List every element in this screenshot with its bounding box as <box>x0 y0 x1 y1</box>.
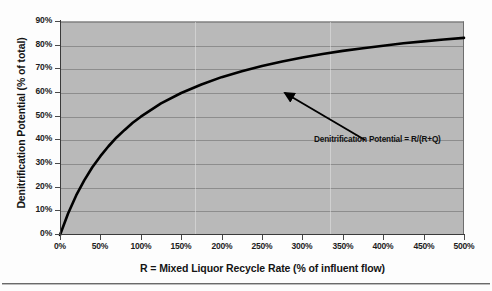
y-axis-tick-label: 70% <box>0 63 52 72</box>
y-axis-tick-label: 90% <box>0 16 52 25</box>
x-axis-tick <box>383 235 384 240</box>
y-axis-tick-label: 30% <box>0 158 52 167</box>
x-axis-tick <box>262 235 263 240</box>
data-curve <box>60 22 464 235</box>
footer-rule-shadow <box>2 284 490 285</box>
y-axis-tick <box>55 21 60 22</box>
x-axis-title: R = Mixed Liquor Recycle Rate (% of infl… <box>60 262 465 274</box>
x-axis-tick <box>343 235 344 240</box>
y-axis-tick-label: 10% <box>0 205 52 214</box>
plot-area: Denitrification Potential = R/(R+Q) <box>60 21 464 234</box>
y-axis-tick <box>55 116 60 117</box>
x-axis-tick <box>181 235 182 240</box>
y-axis-tick-label: 40% <box>0 134 52 143</box>
x-axis-tick <box>464 235 465 240</box>
x-axis-tick-label: 500% <box>434 241 492 251</box>
y-axis-tick-label: 50% <box>0 111 52 120</box>
y-axis-tick-label: 20% <box>0 182 52 191</box>
x-axis-tick <box>60 235 61 240</box>
y-axis-tick <box>55 163 60 164</box>
y-axis-tick-label: 60% <box>0 87 52 96</box>
y-axis-tick <box>55 45 60 46</box>
chart-figure: Denitrification Potential (% of total) D… <box>0 0 492 291</box>
x-axis-tick <box>222 235 223 240</box>
x-axis-tick <box>302 235 303 240</box>
x-axis-tick <box>100 235 101 240</box>
y-axis-tick <box>55 92 60 93</box>
y-axis-tick-label: 80% <box>0 40 52 49</box>
y-axis-tick-label: 0% <box>0 229 52 238</box>
x-axis-tick <box>424 235 425 240</box>
y-axis-tick <box>55 139 60 140</box>
annotation-label: Denitrification Potential = R/(R+Q) <box>314 135 441 144</box>
y-axis-tick <box>55 187 60 188</box>
x-axis-tick <box>141 235 142 240</box>
y-axis-tick <box>55 210 60 211</box>
y-axis-line <box>60 20 61 235</box>
y-axis-tick <box>55 68 60 69</box>
